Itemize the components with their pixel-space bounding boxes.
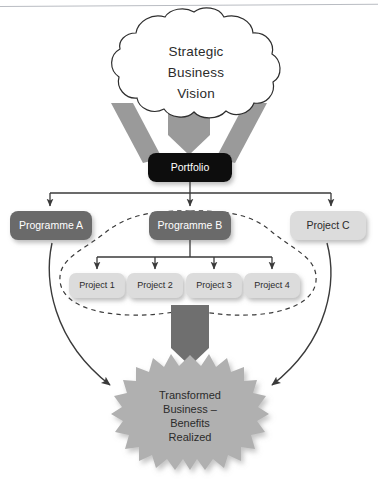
project-c-node[interactable]: Project C	[290, 211, 366, 240]
transformed-business-node[interactable]: Transformed Business – Benefits Realized	[111, 354, 269, 470]
project-4-node[interactable]: Project 4	[244, 273, 300, 298]
programme-a-node[interactable]: Programme A	[10, 211, 92, 240]
programme-b-label: Programme B	[158, 219, 223, 231]
programme-b-branch-connectors	[97, 240, 272, 269]
programme-b-node[interactable]: Programme B	[149, 211, 231, 240]
project-2-label: Project 2	[137, 280, 173, 290]
cloud-line-3: Vision	[177, 86, 215, 101]
diagram-svg: Strategic Business Vision Portfolio Prog…	[0, 0, 378, 480]
cloud-line-1: Strategic	[168, 44, 223, 59]
page-top-rule	[0, 4, 378, 6]
outcome-line-1: Transformed	[159, 389, 221, 401]
project-1-node[interactable]: Project 1	[69, 273, 125, 298]
project-c-label: Project C	[306, 219, 350, 231]
portfolio-label: Portfolio	[171, 161, 210, 173]
project-1-label: Project 1	[79, 280, 115, 290]
project-4-label: Project 4	[254, 280, 290, 290]
programme-a-label: Programme A	[19, 219, 83, 231]
cloud-shape	[112, 8, 280, 118]
diagram-canvas: Strategic Business Vision Portfolio Prog…	[0, 0, 378, 480]
strategic-business-vision-cloud: Strategic Business Vision	[112, 8, 280, 118]
outcome-line-4: Realized	[169, 431, 212, 443]
project-3-label: Project 3	[196, 280, 232, 290]
portfolio-branch-connectors	[50, 182, 331, 206]
portfolio-node[interactable]: Portfolio	[148, 153, 232, 182]
project-2-node[interactable]: Project 2	[127, 273, 183, 298]
outcome-line-2: Business –	[163, 403, 218, 415]
cloud-line-2: Business	[168, 65, 224, 80]
outcome-line-3: Benefits	[170, 417, 210, 429]
project-3-node[interactable]: Project 3	[186, 273, 242, 298]
programme-a-to-outcome-arrow	[49, 243, 110, 385]
project-c-to-outcome-arrow	[272, 243, 331, 385]
